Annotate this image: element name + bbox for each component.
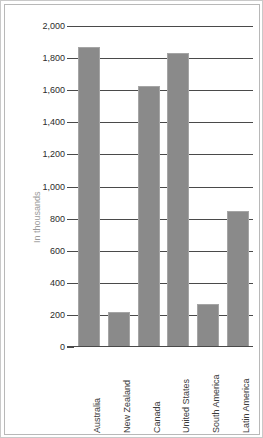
y-axis-tick-label: 600 [50,247,65,256]
chart-canvas: In thousands 02004006008001,0001,2001,40… [4,4,260,435]
y-axis-tick [67,187,74,188]
y-axis-tick [67,122,74,123]
y-axis-tick [67,283,74,284]
y-axis-tick-label: 200 [50,311,65,320]
y-axis-tick-label: 0 [60,343,65,352]
x-axis-label: South America [212,374,221,433]
bar [138,86,160,347]
y-axis-tick-label: 1,600 [42,86,65,95]
bar [197,304,219,347]
y-axis-tick-label: 400 [50,279,65,288]
y-axis-tick-marks [67,26,74,347]
y-axis-tick [67,90,74,91]
y-axis-tick-label: 1,000 [42,183,65,192]
y-axis-tick-label: 2,000 [42,22,65,31]
y-axis-tick [67,315,74,316]
x-axis-label: Latin America [242,378,251,433]
x-axis-category-labels: AustraliaNew ZealandCanadaUnited StatesS… [74,351,253,437]
x-axis-label: United States [182,379,191,433]
chart-figure: In thousands 02004006008001,0001,2001,40… [0,0,263,438]
bar [108,312,130,347]
y-axis-tick [67,219,74,220]
bar [78,47,100,347]
y-axis-tick-label: 800 [50,215,65,224]
y-axis-tick [67,154,74,155]
y-axis-tick [67,347,74,348]
y-axis-tick [67,58,74,59]
y-axis-tick-label: 1,200 [42,150,65,159]
y-axis-tick-label: 1,800 [42,54,65,63]
bar [167,53,189,347]
y-axis-tick [67,251,74,252]
plot-area [74,26,253,347]
y-axis-tick-labels: 02004006008001,0001,2001,4001,6001,8002,… [29,26,65,347]
y-axis-tick-label: 1,400 [42,118,65,127]
x-axis-label: Canada [153,401,162,433]
x-axis-label: Australia [93,398,102,433]
x-axis-line [74,346,253,347]
x-axis-label: New Zealand [123,380,132,433]
bar-series [74,26,253,347]
x-axis-origin-tick [67,346,74,347]
bar [227,211,249,347]
y-axis-tick [67,26,74,27]
